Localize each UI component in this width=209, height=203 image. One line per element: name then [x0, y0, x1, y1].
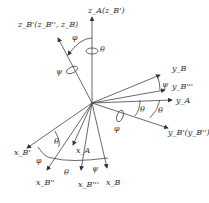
angle-psi-right: ψ: [162, 80, 168, 89]
axis-label-xB-triple: x_B''': [78, 180, 99, 189]
angle-phi-top: φ: [72, 33, 78, 42]
angle-theta-right2: θ: [158, 106, 163, 115]
axis-label-xB-prime: x_B': [14, 148, 31, 157]
angle-phi-right: φ: [114, 124, 120, 133]
axis-label-yB-triple: y_B''': [172, 82, 193, 91]
angle-theta-left: θ: [54, 137, 59, 146]
axis-label-yA: y_A: [176, 96, 190, 105]
axis-label-zB-prime: z_B'(z_B'', z_B): [18, 20, 78, 29]
axis-label-yB-prime: y_B'(y_B''): [168, 128, 209, 137]
frame-rotation-diagram: z_B'(z_B'', z_B) z_A(z_B') y_B y_B''' y_…: [0, 0, 209, 203]
axis-label-xB-double: x_B'': [36, 178, 55, 187]
angle-theta-top: θ: [100, 45, 105, 54]
axis-label-xA: x_A: [76, 146, 90, 155]
angle-psi-top: ψ: [56, 67, 62, 76]
axis-label-xB: x_B: [106, 178, 120, 187]
angle-psi-bottom: ψ: [92, 164, 98, 173]
angle-phi-left: φ: [36, 156, 42, 165]
axis-label-yB: y_B: [172, 64, 186, 73]
angle-theta-right1: θ: [140, 105, 145, 114]
angle-theta-bottom: θ: [64, 168, 69, 177]
axis-label-zA: z_A(z_B'): [88, 6, 125, 15]
